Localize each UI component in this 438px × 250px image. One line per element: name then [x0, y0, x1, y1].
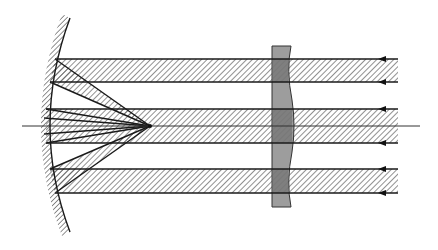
optics-diagram	[0, 0, 438, 250]
focus-point	[148, 124, 152, 128]
upper-beam	[50, 59, 398, 82]
lower-beam	[50, 169, 398, 193]
